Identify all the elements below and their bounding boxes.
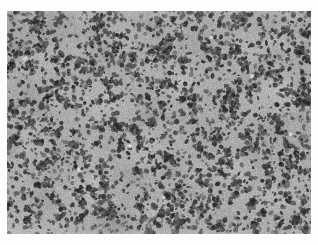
histopathology-micrograph <box>7 11 311 234</box>
micrograph-alt-text: Grayscale histopathology micrograph show… <box>0 0 1 1</box>
micrograph-page: Grayscale histopathology micrograph show… <box>0 0 318 245</box>
micrograph-frame <box>7 11 311 234</box>
